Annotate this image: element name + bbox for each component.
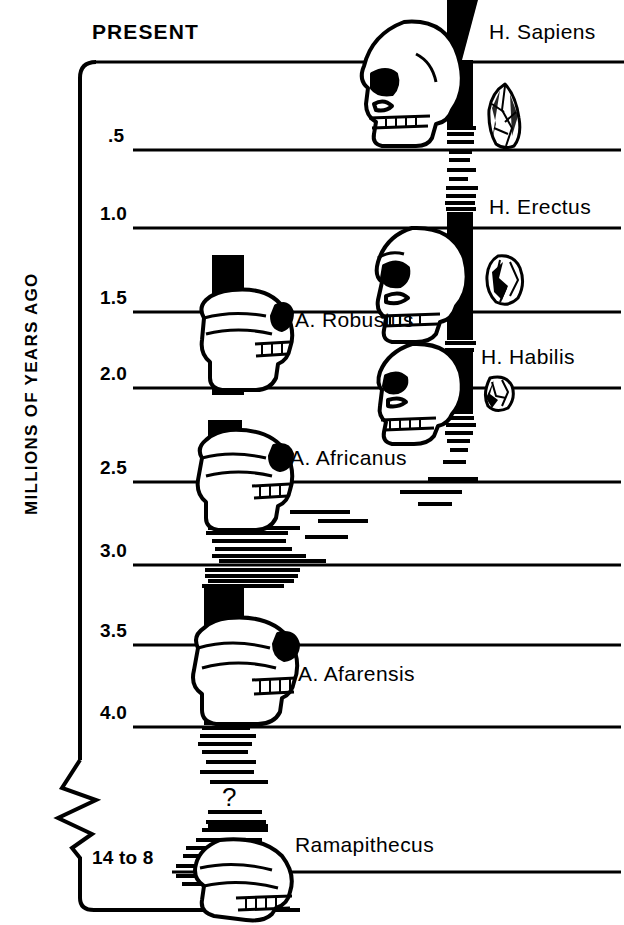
hatch-h-sapiens-to-erectus (445, 134, 478, 209)
tick-label-3-5: 3.5 (100, 620, 127, 642)
tick-label-0-5: .5 (108, 125, 124, 147)
species-label-h-sapiens: H. Sapiens (489, 20, 596, 44)
skull-a-afarensis (193, 617, 298, 724)
tick-label-4-0: 4.0 (100, 702, 127, 724)
skull-a-africanus (198, 430, 293, 530)
tick-label-1-5: 1.5 (100, 287, 127, 309)
tick-label-3-0: 3.0 (100, 540, 127, 562)
species-label-ramapithecus: Ramapithecus (295, 833, 434, 857)
species-label-h-habilis: H. Habilis (481, 345, 575, 369)
axis-title-millions-of-years-ago: MILLIONS OF YEARS AGO (22, 272, 42, 515)
skull-ramapithecus (195, 839, 292, 920)
tool-hand-axe-h-erectus (487, 256, 523, 305)
question-mark-annotation: ? (222, 782, 236, 813)
skull-h-sapiens (362, 22, 462, 146)
tick-label-1-0: 1.0 (100, 203, 127, 225)
species-label-a-robustus: A. Robustus (295, 308, 414, 332)
species-label-a-afarensis: A. Afarensis (298, 662, 415, 686)
tick-label-14-to-8: 14 to 8 (92, 847, 154, 869)
present-label: PRESENT (92, 20, 199, 44)
tool-stone-point-h-sapiens (489, 84, 520, 148)
species-label-h-erectus: H. Erectus (489, 195, 591, 219)
species-label-a-africanus: A. Africanus (290, 446, 407, 470)
tool-chopper-h-habilis (485, 377, 513, 411)
tick-label-2-5: 2.5 (100, 457, 127, 479)
skull-h-habilis (378, 344, 461, 444)
skull-a-robustus (201, 289, 292, 390)
tick-label-2-0: 2.0 (100, 363, 127, 385)
